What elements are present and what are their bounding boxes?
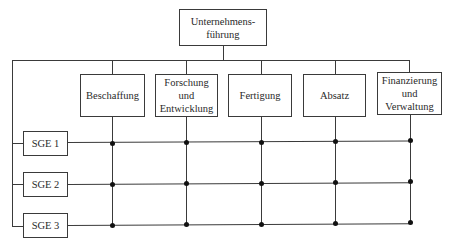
function-bus-line [12,60,410,61]
function-label: Beschaffung [86,89,139,102]
connector-absatz [335,60,336,74]
function-label: Absatz [320,89,349,102]
node-sge1-beschaffung [110,141,115,146]
sge-label: SGE 1 [32,137,60,150]
node-sge1-absatz [333,139,338,144]
function-box-absatz: Absatz [303,74,366,117]
function-label: Finanzierung und Verwaltung [382,74,437,113]
connector-fertigung [261,60,262,74]
node-sge2-beschaffung [110,182,115,187]
feeder-sge3 [12,226,23,227]
function-label: Fertigung [240,89,281,102]
node-sge1-fertigung [259,140,264,145]
feeder-sge1 [12,143,23,144]
feeder-sge2 [12,184,23,185]
function-box-finanzierung: Finanzierung und Verwaltung [377,72,442,115]
node-sge3-absatz [333,221,338,226]
sge-box-3: SGE 3 [23,213,68,238]
function-box-fertigung: Fertigung [228,74,292,117]
node-sge2-absatz [333,180,338,185]
node-sge3-beschaffung [110,223,115,228]
function-box-beschaffung: Beschaffung [80,74,145,117]
sge-label: SGE 3 [32,219,60,232]
node-sge3-fertigung [259,222,264,227]
connector-forschung [186,60,187,74]
node-sge3-forschung [184,222,189,227]
top-management-box: Unternehmens- führung [179,9,267,46]
top-management-label: Unternehmens- führung [191,15,256,41]
function-box-forschung: Forschung und Entwicklung [155,74,218,117]
grid-column-absatz [335,117,336,224]
node-sge2-forschung [184,181,189,186]
sge-label: SGE 2 [32,178,60,191]
node-sge2-fertigung [259,181,264,186]
node-sge1-finanzierung [408,138,413,143]
grid-row-sge2 [68,182,410,185]
grid-column-forschung [186,117,187,225]
connector-beschaffung [112,60,113,74]
sge-box-1: SGE 1 [23,131,68,156]
grid-row-sge3 [68,223,410,226]
node-sge3-finanzierung [408,220,413,225]
grid-column-fertigung [261,117,262,225]
node-sge1-forschung [184,140,189,145]
sge-box-2: SGE 2 [23,172,68,197]
grid-column-beschaffung [112,117,113,226]
top-connector [223,45,224,60]
grid-row-sge1 [68,141,410,143]
function-label: Forschung und Entwicklung [160,76,214,115]
grid-column-finanzierung [410,115,411,222]
node-sge2-finanzierung [408,179,413,184]
